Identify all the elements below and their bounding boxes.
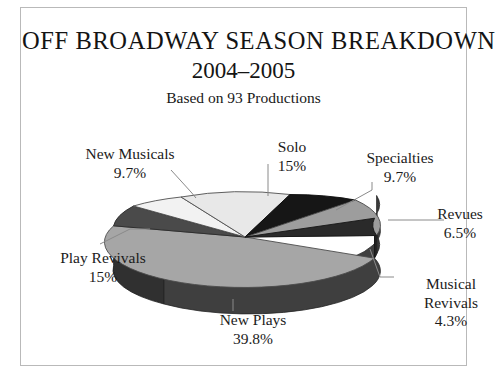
- slice-label-solo: Solo 15%: [257, 138, 327, 175]
- slice-label-musical-revivals: Musical Revivals 4.3%: [405, 275, 497, 331]
- slice-label-play-revivals-name: Play Revivals: [60, 249, 146, 266]
- slice-label-new-musicals: New Musicals 9.7%: [65, 145, 195, 182]
- slice-label-specialties-pct: 9.7%: [345, 168, 455, 187]
- slice-label-specialties: Specialties 9.7%: [345, 149, 455, 186]
- slice-label-play-revivals: Play Revivals 15%: [43, 249, 163, 286]
- slice-label-revues-pct: 6.5%: [418, 224, 499, 243]
- slice-label-new-musicals-pct: 9.7%: [65, 164, 195, 183]
- slice-label-solo-pct: 15%: [257, 157, 327, 176]
- slice-label-musical-revivals-pct: 4.3%: [405, 312, 497, 331]
- slice-label-new-plays-name: New Plays: [220, 311, 287, 328]
- slice-label-new-plays: New Plays 39.8%: [198, 311, 308, 348]
- slice-label-new-musicals-name: New Musicals: [85, 145, 174, 162]
- slice-label-musical-revivals-name-line1: Musical: [405, 275, 497, 294]
- pie-chart-plot-area: New Musicals 9.7% Solo 15% Specialties 9…: [20, 7, 467, 366]
- slice-label-play-revivals-pct: 15%: [43, 268, 163, 287]
- slice-label-solo-name: Solo: [278, 138, 306, 155]
- slice-label-musical-revivals-name-line2: Revivals: [405, 294, 497, 313]
- slice-label-revues-name: Revues: [437, 205, 483, 222]
- slice-label-revues: Revues 6.5%: [418, 205, 499, 242]
- slice-label-new-plays-pct: 39.8%: [198, 330, 308, 349]
- slice-label-specialties-name: Specialties: [366, 149, 433, 166]
